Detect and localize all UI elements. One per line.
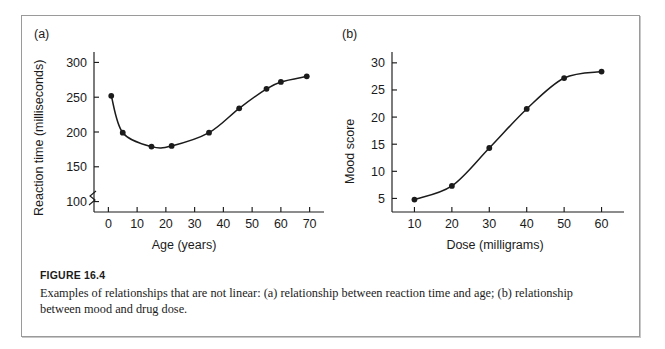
x-tick-label: 0 xyxy=(105,217,112,231)
data-point xyxy=(304,73,310,79)
data-points-b xyxy=(412,69,605,203)
panel-label-b: (b) xyxy=(342,27,357,41)
x-tick-label: 20 xyxy=(159,217,173,231)
x-axis-title-a: Age (years) xyxy=(152,238,217,252)
y-tick-label: 5 xyxy=(378,192,385,206)
y-axis-break-icon xyxy=(89,191,96,205)
y-tick-label: 25 xyxy=(371,83,385,97)
x-tick-label: 50 xyxy=(245,217,259,231)
x-tick-label: 60 xyxy=(274,217,288,231)
data-point xyxy=(169,143,175,149)
data-point xyxy=(599,69,605,75)
data-point xyxy=(206,130,212,136)
y-tick-label: 250 xyxy=(66,91,87,105)
data-point xyxy=(108,93,114,99)
chart-svg-b: (b) Mood score Dose (milligrams) 5101520… xyxy=(332,16,640,261)
plots-area: (a) Reaction time (milliseconds) Age (ye… xyxy=(22,16,639,261)
x-tick-label: 50 xyxy=(557,217,571,231)
x-ticks-a: 010203040506070 xyxy=(105,207,317,231)
y-axis-title-b: Mood score xyxy=(343,119,357,184)
x-tick-label: 40 xyxy=(520,217,534,231)
chart-panel-b: (b) Mood score Dose (milligrams) 5101520… xyxy=(332,16,640,261)
caption-text: Examples of relationships that are not l… xyxy=(40,286,600,317)
y-tick-label: 300 xyxy=(66,56,87,70)
x-axis-title-b: Dose (milligrams) xyxy=(446,238,543,252)
y-tick-label: 200 xyxy=(66,126,87,140)
data-point xyxy=(449,183,455,189)
chart-panel-a: (a) Reaction time (milliseconds) Age (ye… xyxy=(24,16,332,261)
data-curve-a xyxy=(111,76,307,148)
x-tick-label: 30 xyxy=(482,217,496,231)
y-ticks-b: 51015202530 xyxy=(371,56,397,206)
y-tick-label: 150 xyxy=(66,160,87,174)
data-curve-b xyxy=(414,72,601,200)
x-tick-label: 30 xyxy=(188,217,202,231)
data-point xyxy=(278,79,284,85)
axes-b xyxy=(392,52,624,212)
y-tick-label: 20 xyxy=(371,111,385,125)
data-points-a xyxy=(108,73,309,149)
data-point xyxy=(149,144,155,150)
y-tick-label: 10 xyxy=(371,165,385,179)
x-ticks-b: 102030405060 xyxy=(407,207,608,231)
y-tick-label: 30 xyxy=(371,56,385,70)
data-point xyxy=(236,105,242,111)
y-tick-label: 15 xyxy=(371,138,385,152)
figure-caption: FIGURE 16.4 Examples of relationships th… xyxy=(40,269,600,317)
figure-container: (a) Reaction time (milliseconds) Age (ye… xyxy=(21,15,640,337)
chart-svg-a: (a) Reaction time (milliseconds) Age (ye… xyxy=(24,16,332,261)
x-tick-label: 70 xyxy=(303,217,317,231)
x-tick-label: 20 xyxy=(445,217,459,231)
data-point xyxy=(524,106,530,112)
panel-label-a: (a) xyxy=(34,27,49,41)
y-tick-label: 100 xyxy=(66,195,87,209)
y-axis-title-a: Reaction time (milliseconds) xyxy=(32,60,46,216)
data-point xyxy=(120,130,126,136)
data-point xyxy=(264,86,270,92)
x-tick-label: 40 xyxy=(216,217,230,231)
x-tick-label: 60 xyxy=(595,217,609,231)
data-point xyxy=(486,145,492,151)
x-tick-label: 10 xyxy=(130,217,144,231)
data-point xyxy=(561,75,567,81)
caption-title: FIGURE 16.4 xyxy=(40,269,600,281)
data-point xyxy=(412,197,418,203)
x-tick-label: 10 xyxy=(407,217,421,231)
